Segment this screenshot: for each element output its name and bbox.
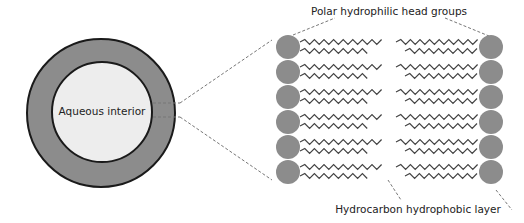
- hydrocarbon-tail: [396, 115, 478, 120]
- hydrocarbon-tail: [405, 74, 477, 79]
- hydrocarbon-tail: [300, 149, 367, 154]
- polar-head-group: [276, 160, 300, 184]
- hydrocarbon-tail: [405, 124, 477, 129]
- polar-head-group: [276, 35, 300, 59]
- liposome-diagram: Aqueous interior Polar hydrophilic head …: [0, 0, 524, 223]
- polar-head-group: [479, 60, 503, 84]
- polar-head-group: [479, 35, 503, 59]
- hydrocarbon-tail: [300, 124, 367, 129]
- hydrocarbon-tail: [300, 140, 382, 145]
- polar-head-group: [479, 110, 503, 134]
- polar-head-group: [276, 135, 300, 159]
- hydrocarbon-tail: [396, 40, 478, 45]
- hydrocarbon-tail: [396, 140, 478, 145]
- hydrocarbon-tail: [300, 174, 367, 179]
- hydrocarbon-tail: [405, 99, 477, 104]
- polar-head-group: [479, 85, 503, 109]
- vesicle: Aqueous interior: [27, 39, 175, 187]
- polar-head-group: [276, 60, 300, 84]
- hydrocarbon-tail: [300, 115, 382, 120]
- aqueous-interior-label: Aqueous interior: [59, 105, 146, 117]
- polar-head-group: [479, 135, 503, 159]
- polar-head-group: [479, 160, 503, 184]
- hydrocarbon-tail: [300, 99, 367, 104]
- polar-head-group: [276, 85, 300, 109]
- hydrocarbon-tail: [405, 49, 477, 54]
- hydrocarbon-tail: [396, 65, 478, 70]
- hydrocarbon-tail: [405, 174, 477, 179]
- hydrophobic-layer-label: Hydrocarbon hydrophobic layer: [335, 203, 501, 215]
- hydrocarbon-tail: [300, 65, 382, 70]
- head-groups-label: Polar hydrophilic head groups: [311, 5, 467, 17]
- hydrocarbon-tail: [300, 74, 367, 79]
- hydrocarbon-tail: [300, 49, 367, 54]
- lipid-bilayer: [276, 35, 503, 184]
- hydrocarbon-tail: [396, 165, 478, 170]
- hydrocarbon-tail: [396, 90, 478, 95]
- polar-head-group: [276, 110, 300, 134]
- hydrocarbon-tail: [300, 165, 382, 170]
- hydrocarbon-tail: [405, 149, 477, 154]
- hydrocarbon-tail: [300, 90, 382, 95]
- hydrocarbon-tail: [300, 40, 382, 45]
